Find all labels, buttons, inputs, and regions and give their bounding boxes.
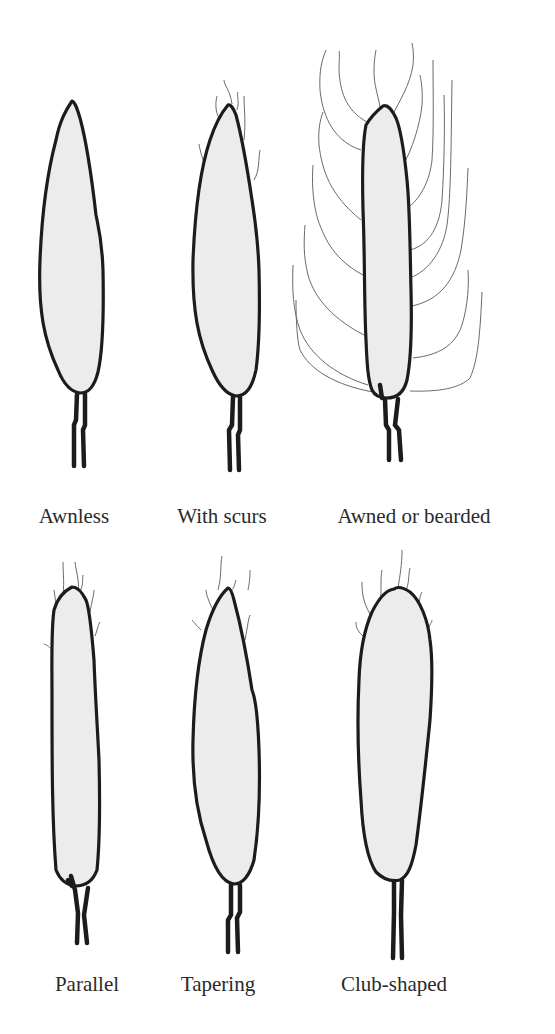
spike-tapering: [192, 556, 259, 952]
label-awned-or-bearded: Awned or bearded: [337, 504, 490, 529]
spike-awned-or-bearded: [293, 43, 482, 460]
spike-club-shaped: [356, 550, 432, 958]
spike-parallel: [44, 562, 100, 943]
label-tapering: Tapering: [181, 972, 255, 997]
label-parallel: Parallel: [55, 972, 119, 997]
spike-with-scurs: [193, 80, 260, 470]
label-with-scurs: With scurs: [177, 504, 267, 529]
spike-awnless: [40, 101, 104, 466]
label-club-shaped: Club-shaped: [341, 972, 447, 997]
label-awnless: Awnless: [39, 504, 109, 529]
